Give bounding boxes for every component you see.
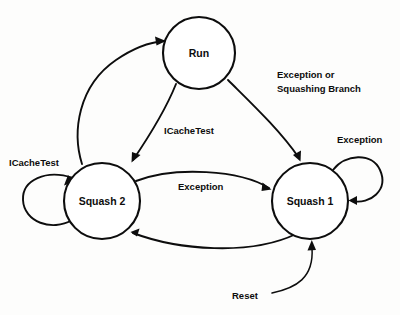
edge-label-run-to-squash1-line1: Exception or bbox=[277, 69, 335, 80]
transition-squash1-to-squash2 bbox=[131, 229, 297, 249]
edge-label-run-to-squash1-line2: Squashing Branch bbox=[277, 83, 361, 94]
transition-squash2-to-run bbox=[78, 37, 166, 165]
state-node-squash1[interactable]: Squash 1 bbox=[272, 163, 348, 239]
edge-line-run-to-squash2 bbox=[133, 84, 176, 160]
arrow-head-squash2-to-squash1 bbox=[262, 183, 272, 192]
arrow-head-run-to-squash2 bbox=[132, 152, 141, 163]
state-label-squash2: Squash 2 bbox=[79, 195, 126, 207]
state-diagram-canvas: ICacheTest Exception or Squashing Branch… bbox=[0, 0, 400, 315]
edge-line-squash2-to-run bbox=[78, 41, 164, 164]
transition-run-to-squash2: ICacheTest bbox=[132, 84, 215, 163]
state-label-run: Run bbox=[189, 47, 209, 59]
edge-label-run-to-squash2: ICacheTest bbox=[164, 125, 215, 136]
edge-line-reset-entry bbox=[272, 248, 312, 293]
transition-run-to-squash1: Exception or Squashing Branch bbox=[228, 69, 361, 162]
state-label-squash1: Squash 1 bbox=[287, 195, 334, 207]
edge-label-squash2-self-loop: ICacheTest bbox=[9, 157, 60, 168]
state-node-run[interactable]: Run bbox=[163, 17, 235, 89]
edge-label-reset-entry: Reset bbox=[232, 290, 259, 301]
edge-line-squash1-to-squash2 bbox=[133, 233, 296, 248]
transition-squash2-to-squash1: Exception bbox=[136, 172, 272, 192]
arrow-head-squash1-self-loop bbox=[349, 196, 358, 205]
transition-reset-entry: Reset bbox=[232, 240, 316, 301]
state-node-squash2[interactable]: Squash 2 bbox=[64, 163, 140, 239]
arrow-head-reset-entry bbox=[308, 240, 317, 251]
edge-label-squash2-to-squash1: Exception bbox=[178, 181, 224, 192]
state-diagram: ICacheTest Exception or Squashing Branch… bbox=[0, 0, 400, 315]
edge-label-squash1-self-loop: Exception bbox=[337, 134, 383, 145]
